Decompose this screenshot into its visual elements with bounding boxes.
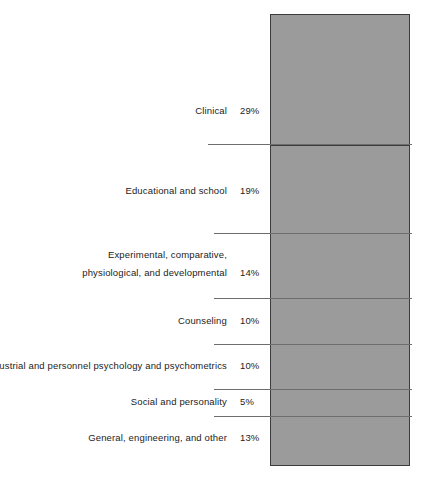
stacked-bar-chart: Clinical 29% Educational and school 19% … bbox=[0, 0, 422, 480]
segment-label-text-line1: Experimental, comparative, bbox=[108, 249, 227, 260]
segment-label-value: 10% bbox=[240, 315, 262, 326]
segment-label-text: Social and personality bbox=[131, 396, 227, 407]
leader-line-industrial-social bbox=[214, 389, 412, 390]
segment-label-value: 19% bbox=[240, 185, 262, 196]
leader-line-social-general bbox=[214, 416, 412, 417]
segment-label-text-line2: physiological, and developmental bbox=[82, 267, 227, 278]
stacked-bar-column bbox=[270, 14, 410, 466]
bar-segment-social-and-personality bbox=[271, 389, 409, 416]
segment-label-value: 5% bbox=[240, 396, 262, 407]
segment-label-counseling: Counseling 10% bbox=[178, 315, 262, 326]
segment-label-general-engineering-and-other: General, engineering, and other 13% bbox=[88, 432, 262, 443]
segment-label-social-and-personality: Social and personality 5% bbox=[131, 396, 262, 407]
segment-label-text: Clinical bbox=[195, 105, 227, 116]
segment-label-industrial-and-personnel-psychology-and-psychometrics: Industrial and personnel psychology and … bbox=[0, 360, 262, 371]
segment-label-clinical: Clinical 29% bbox=[195, 105, 262, 116]
bar-segment-educational-and-school bbox=[271, 145, 409, 233]
segment-label-text: Educational and school bbox=[125, 185, 227, 196]
segment-label-text: Experimental, comparative, physiological… bbox=[82, 249, 227, 278]
segment-label-educational-and-school: Educational and school 19% bbox=[125, 185, 262, 196]
segment-label-text: Counseling bbox=[178, 315, 227, 326]
segment-label-text: Industrial and personnel psychology and … bbox=[0, 360, 227, 371]
leader-line-counseling-industrial bbox=[214, 344, 412, 345]
segment-label-value: 13% bbox=[240, 432, 262, 443]
bar-segment-experimental-comparative-physiological-developmental bbox=[271, 233, 409, 298]
bar-segment-general-engineering-and-other bbox=[271, 416, 409, 467]
leader-line-experimental-counseling bbox=[214, 298, 412, 299]
bar-segment-counseling bbox=[271, 298, 409, 344]
segment-label-value: 10% bbox=[240, 360, 262, 371]
bar-segment-clinical bbox=[271, 15, 409, 145]
leader-line-educational-experimental bbox=[214, 233, 412, 234]
segment-label-value: 14% bbox=[240, 267, 262, 278]
leader-line-clinical-educational bbox=[208, 144, 412, 145]
bar-segment-industrial-and-personnel-psychology-and-psychometrics bbox=[271, 344, 409, 389]
segment-label-value: 29% bbox=[240, 105, 262, 116]
segment-label-experimental-comparative-physiological-developmental: Experimental, comparative, physiological… bbox=[82, 249, 262, 278]
segment-label-text: General, engineering, and other bbox=[88, 432, 227, 443]
